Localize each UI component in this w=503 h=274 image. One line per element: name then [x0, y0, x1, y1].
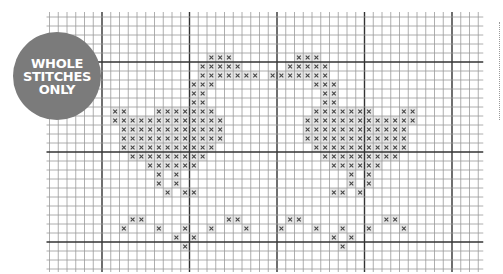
whole-stitches-only-badge: WHOLE STITCHES ONLY	[13, 32, 101, 120]
dotted-fold-line	[499, 22, 500, 120]
grid-lines	[47, 12, 484, 272]
badge-line-2: STITCHES	[23, 70, 91, 83]
badge-line-1: WHOLE	[31, 57, 83, 70]
badge-line-3: ONLY	[39, 83, 75, 96]
